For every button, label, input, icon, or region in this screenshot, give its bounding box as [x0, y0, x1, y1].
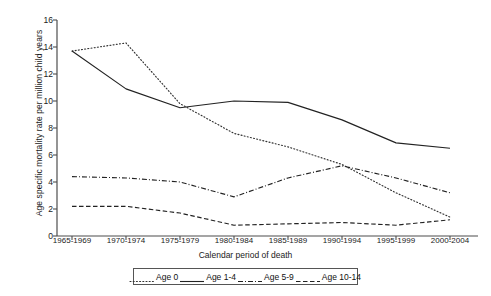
chart-legend: Age 0 Age 1-4 Age 5-9 Age 10-14 [133, 268, 358, 285]
legend-label-age-10-14: Age 10-14 [321, 272, 362, 282]
legend-swatch-age-1-4 [179, 272, 205, 281]
legend-label-age-1-4: Age 1-4 [205, 272, 237, 282]
legend-label-age-5-9: Age 5-9 [263, 272, 295, 282]
series-line-age-10-14 [72, 206, 450, 225]
legend-swatch-age-10-14 [295, 272, 321, 281]
legend-entry-age-5-9: Age 5-9 [237, 272, 295, 282]
legend-entry-age-0: Age 0 [129, 272, 179, 282]
legend-entry-age-10-14: Age 10-14 [295, 272, 362, 282]
series-line-age-0 [72, 43, 450, 217]
x-tick-marks [72, 236, 450, 240]
axis-lines [57, 20, 478, 236]
legend-swatch-age-5-9 [237, 272, 263, 281]
series-line-age-1-4 [72, 51, 450, 148]
legend-label-age-0: Age 0 [155, 272, 179, 282]
chart-figure: Age specific mortality rate per million … [0, 0, 491, 296]
data-series-layer [72, 43, 450, 225]
legend-entry-age-1-4: Age 1-4 [179, 272, 237, 282]
legend-swatch-age-0 [129, 272, 155, 281]
series-line-age-5-9 [72, 166, 450, 197]
plot-area [0, 0, 491, 296]
